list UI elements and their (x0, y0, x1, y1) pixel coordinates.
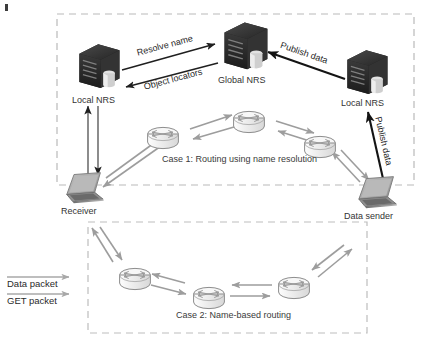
case2-receiver-arrows (92, 227, 122, 262)
server-icon-local-nrs-right (347, 50, 387, 94)
label-case-2: Case 2: Name-based routing (176, 311, 291, 320)
label-receiver: Receiver (61, 207, 97, 216)
laptop-icon-data-sender (359, 177, 397, 209)
figure-root: Local NRS Global NRS Local NRS Receiver … (0, 0, 427, 356)
router-icon-c1-1 (148, 127, 179, 148)
label-local-nrs-right: Local NRS (341, 99, 384, 108)
case2-sender-arrows (312, 245, 352, 277)
router-icon-c2-1 (120, 268, 151, 289)
label-data-sender: Data sender (344, 212, 393, 221)
diagram-canvas (0, 0, 427, 356)
laptop-icon-receiver (67, 173, 104, 204)
server-icon-global-nrs (225, 23, 268, 70)
legend-label-get-packet: GET packet (7, 296, 57, 306)
legend-label-data-packet: Data packet (7, 279, 58, 289)
router-icon-c2-2 (194, 287, 225, 308)
label-local-nrs-left: Local NRS (72, 96, 115, 105)
server-icon-local-nrs-left (79, 44, 119, 88)
case1-sender-arrows (332, 150, 369, 182)
case1-receiver-nrs-arrows (88, 106, 98, 175)
label-global-nrs: Global NRS (218, 76, 266, 85)
router-icon-c2-3 (279, 277, 310, 298)
label-case-1: Case 1: Routing using name resolution (162, 155, 317, 164)
router-icon-c1-2 (234, 111, 265, 132)
